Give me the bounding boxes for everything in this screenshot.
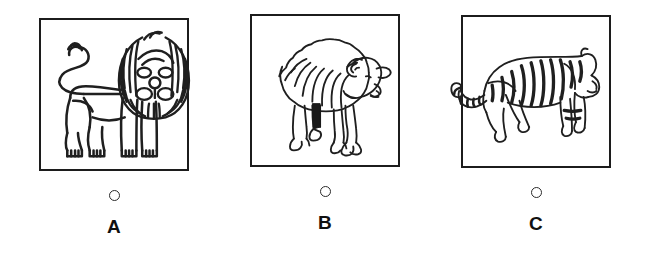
sheep-illustration-frame[interactable] [250, 14, 400, 167]
radio-button-c[interactable] [531, 187, 542, 198]
option-letter-c: C [529, 214, 543, 233]
answer-option-a[interactable]: A [18, 0, 210, 236]
lion-illustration [41, 20, 187, 169]
sheep-illustration [252, 16, 398, 165]
tiger-illustration [463, 17, 609, 166]
option-letter-a: A [107, 217, 121, 236]
tiger-illustration-frame[interactable] [461, 15, 611, 168]
answer-option-b[interactable]: B [229, 0, 421, 232]
answer-option-c[interactable]: C [440, 0, 632, 233]
lion-illustration-frame[interactable] [39, 18, 189, 171]
sheep-dark-leg [312, 104, 320, 129]
radio-button-b[interactable] [320, 186, 331, 197]
radio-button-a[interactable] [109, 190, 120, 201]
option-letter-b: B [318, 213, 332, 232]
answer-options-row: A [0, 0, 650, 260]
